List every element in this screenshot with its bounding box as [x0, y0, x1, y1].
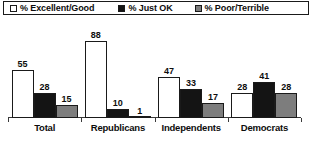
- bar-item: 88: [85, 20, 107, 118]
- legend-swatch-poor-terrible: [195, 5, 202, 12]
- axis-tick: [301, 118, 302, 122]
- legend-swatch-excellent-good: [10, 5, 17, 12]
- bar-item: 28: [34, 20, 56, 118]
- bar: [180, 89, 202, 118]
- bar: [202, 103, 224, 118]
- bar-group: 552815: [8, 20, 81, 118]
- bar: [34, 93, 56, 118]
- bar-item: 28: [275, 20, 297, 118]
- bar: [56, 105, 78, 118]
- bar-value-label: 47: [164, 66, 174, 76]
- bar: [158, 77, 180, 118]
- bar: [231, 93, 253, 118]
- bar-group: 473317: [155, 20, 228, 118]
- bar-item: 55: [12, 20, 34, 118]
- bar-value-label: 28: [281, 82, 291, 92]
- bar-value-label: 10: [113, 98, 123, 108]
- bar: [275, 93, 297, 118]
- legend-item-just-ok: % Just OK: [118, 2, 172, 14]
- bar-value-label: 41: [259, 71, 269, 81]
- legend-swatch-just-ok: [118, 5, 125, 12]
- x-axis-category-label: Republicans: [81, 122, 154, 133]
- legend-label-poor-terrible: % Poor/Terrible: [205, 3, 269, 13]
- bar-value-label: 55: [18, 59, 28, 69]
- bar-item: 41: [253, 20, 275, 118]
- bar: [107, 109, 129, 118]
- x-axis-category-label: Total: [8, 122, 81, 133]
- legend-item-poor-terrible: % Poor/Terrible: [195, 2, 269, 14]
- bar: [85, 41, 107, 118]
- bar-value-label: 33: [186, 78, 196, 88]
- bar-group: 88101: [81, 20, 154, 118]
- bar: [12, 70, 34, 118]
- legend-item-excellent-good: % Excellent/Good: [10, 2, 94, 14]
- bar-item: 15: [56, 20, 78, 118]
- x-axis-category-label: Independents: [155, 122, 228, 133]
- bar-value-label: 15: [62, 94, 72, 104]
- bar-item: 28: [231, 20, 253, 118]
- bar: [253, 82, 275, 118]
- bar-item: 17: [202, 20, 224, 118]
- x-axis-category-label: Democrats: [228, 122, 301, 133]
- bar-item: 47: [158, 20, 180, 118]
- bar-value-label: 17: [208, 92, 218, 102]
- chart-legend: % Excellent/Good % Just OK % Poor/Terrib…: [3, 1, 309, 15]
- bar-value-label: 28: [40, 82, 50, 92]
- bar: [129, 116, 151, 118]
- bar-group: 284128: [228, 20, 301, 118]
- bar-value-label: 88: [91, 30, 101, 40]
- bar-item: 33: [180, 20, 202, 118]
- bar-item: 1: [129, 20, 151, 118]
- bar-value-label: 28: [237, 82, 247, 92]
- bar-chart: % Excellent/Good % Just OK % Poor/Terrib…: [0, 0, 316, 156]
- bar-item: 10: [107, 20, 129, 118]
- legend-label-excellent-good: % Excellent/Good: [20, 3, 94, 13]
- bar-value-label: 1: [137, 106, 142, 116]
- legend-label-just-ok: % Just OK: [128, 3, 172, 13]
